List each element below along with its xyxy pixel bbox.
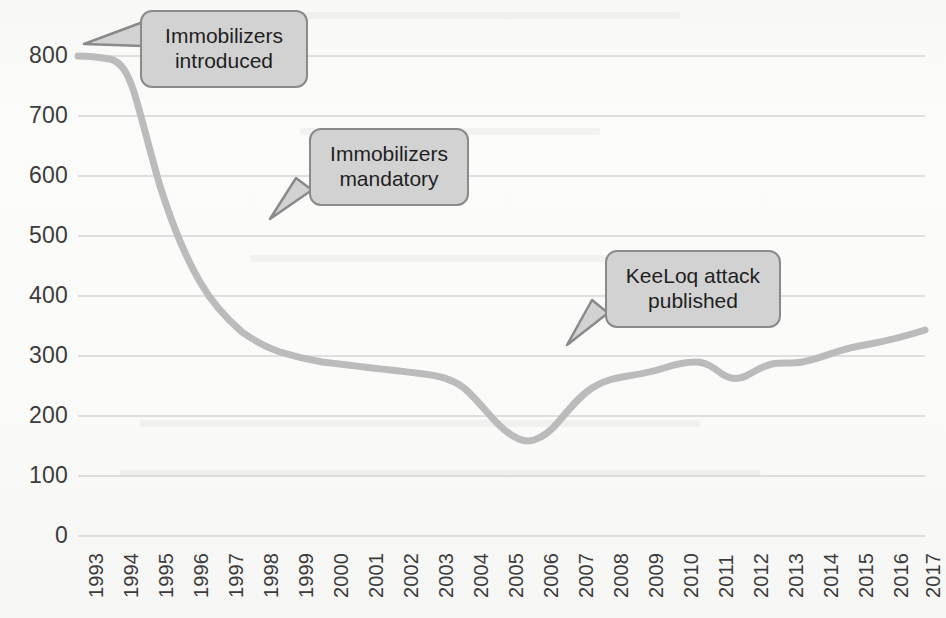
xtick-label-2008: 2008 xyxy=(610,553,633,598)
callout-tail-keeloq-attack xyxy=(567,300,608,345)
ytick-label-100: 100 xyxy=(6,462,68,489)
xtick-label-1996: 1996 xyxy=(190,553,213,598)
xtick-label-2016: 2016 xyxy=(890,553,913,598)
xtick-label-2000: 2000 xyxy=(330,553,353,598)
ytick-label-600: 600 xyxy=(6,162,68,189)
xtick-label-1998: 1998 xyxy=(260,553,283,598)
xtick-label-2015: 2015 xyxy=(855,553,878,598)
xtick-label-2010: 2010 xyxy=(680,553,703,598)
xtick-label-2002: 2002 xyxy=(400,553,423,598)
callout-tail-immobilizers-mandatory xyxy=(270,178,312,219)
ytick-label-200: 200 xyxy=(6,402,68,429)
xtick-label-2006: 2006 xyxy=(540,553,563,598)
callout-immobilizers-introduced: Immobilizers introduced xyxy=(140,10,308,88)
xtick-label-1997: 1997 xyxy=(225,553,248,598)
xtick-label-2005: 2005 xyxy=(505,553,528,598)
xtick-label-1994: 1994 xyxy=(120,553,143,598)
xtick-label-2011: 2011 xyxy=(715,555,738,598)
ytick-label-700: 700 xyxy=(6,102,68,129)
data-series-vehicle-thefts xyxy=(78,56,925,441)
chart-page: 800 700 600 500 400 300 200 100 0 1993 1… xyxy=(0,0,946,618)
series-line-path xyxy=(78,56,925,441)
ytick-label-400: 400 xyxy=(6,282,68,309)
ytick-label-800: 800 xyxy=(6,42,68,69)
xtick-label-1993: 1993 xyxy=(85,553,108,598)
xtick-label-1999: 1999 xyxy=(295,553,318,598)
ytick-label-300: 300 xyxy=(6,342,68,369)
callout-immobilizers-mandatory: Immobilizers mandatory xyxy=(309,128,469,206)
callout-tail-immobilizers-introduced xyxy=(84,22,143,46)
xtick-label-2004: 2004 xyxy=(470,553,493,598)
xtick-label-2001: 2001 xyxy=(365,553,388,598)
xtick-label-2009: 2009 xyxy=(645,553,668,598)
xtick-label-2003: 2003 xyxy=(435,553,458,598)
callout-keeloq-attack-published: KeeLoq attack published xyxy=(605,250,781,328)
xtick-label-2012: 2012 xyxy=(750,553,773,598)
ytick-label-0: 0 xyxy=(6,522,68,549)
xtick-label-2017: 2017 xyxy=(922,553,945,598)
xtick-label-2007: 2007 xyxy=(575,553,598,598)
line-chart-canvas xyxy=(0,0,946,618)
xtick-label-2013: 2013 xyxy=(785,553,808,598)
xtick-label-1995: 1995 xyxy=(155,553,178,598)
xtick-label-2014: 2014 xyxy=(820,553,843,598)
ytick-label-500: 500 xyxy=(6,222,68,249)
